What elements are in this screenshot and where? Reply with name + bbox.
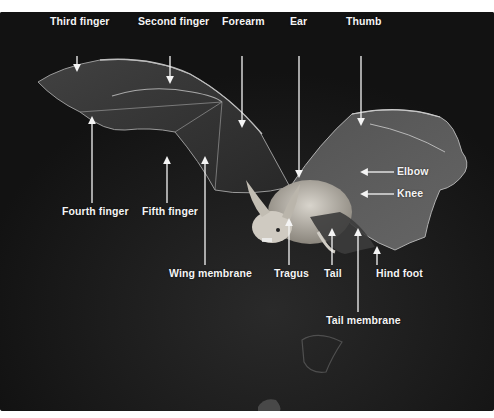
label-tail: Tail (324, 267, 342, 279)
label-second-finger: Second finger (138, 15, 209, 27)
label-wing-membrane: Wing membrane (169, 267, 252, 279)
label-third-finger: Third finger (50, 15, 110, 27)
label-hind-foot: Hind foot (376, 267, 423, 279)
label-fifth-finger: Fifth finger (142, 205, 198, 217)
label-ear: Ear (290, 15, 307, 27)
label-knee: Knee (397, 187, 423, 199)
label-thumb: Thumb (346, 15, 382, 27)
label-tail-membrane: Tail membrane (326, 314, 401, 326)
label-fourth-finger: Fourth finger (62, 205, 129, 217)
label-tragus: Tragus (274, 267, 309, 279)
label-forearm: Forearm (222, 15, 265, 27)
label-elbow: Elbow (397, 165, 428, 177)
